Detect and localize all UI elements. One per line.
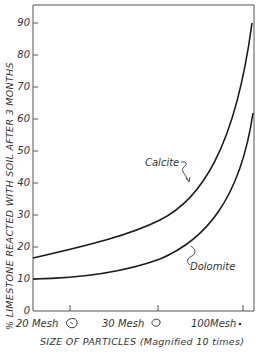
x-cat-20-mesh: 20 Mesh (16, 318, 58, 329)
x-axis-title: SIZE OF PARTICLES (Magnified 10 times) (40, 336, 244, 347)
y-axis-ticks (33, 23, 38, 279)
ytick-90: 90 (17, 17, 30, 28)
ytick-80: 80 (17, 49, 30, 60)
ytick-40: 40 (17, 177, 30, 188)
x-axis-ticks (70, 305, 243, 311)
ytick-50: 50 (17, 145, 30, 156)
ytick-60: 60 (17, 113, 30, 124)
calcite-pointer-icon (181, 162, 188, 180)
ytick-70: 70 (17, 81, 30, 92)
calcite-label: Calcite (145, 157, 179, 168)
y-axis-tick-labels: 0 10 20 30 40 50 60 70 80 90 (17, 17, 30, 316)
coarse-particle-icon (67, 318, 78, 327)
x-cat-30-mesh: 30 Mesh (102, 318, 144, 329)
ytick-0: 0 (24, 305, 30, 316)
ytick-30: 30 (17, 209, 30, 220)
x-cat-100-mesh: 100Mesh (191, 318, 236, 329)
calcite-curve (33, 23, 252, 258)
y-axis-title: % LIMESTONE REACTED WITH SOIL AFTER 3 MO… (4, 62, 15, 330)
dolomite-label: Dolomite (190, 261, 235, 272)
medium-particle-icon (152, 319, 160, 326)
chart-canvas: 0 10 20 30 40 50 60 70 80 90 % LIMESTONE… (0, 0, 261, 354)
dolomite-curve (33, 113, 253, 279)
ytick-20: 20 (17, 241, 30, 252)
ytick-10: 10 (17, 273, 30, 284)
fine-particle-dot-icon (239, 323, 242, 326)
